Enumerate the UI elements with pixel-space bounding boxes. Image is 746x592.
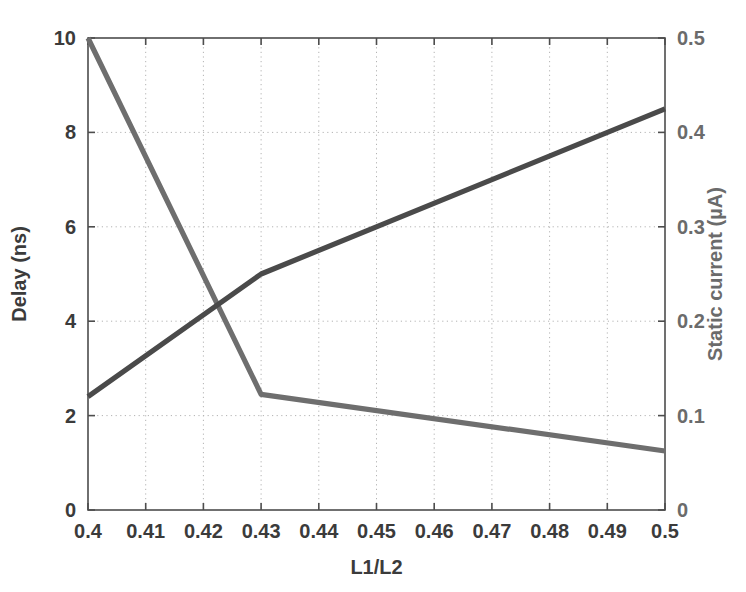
y-tick-label-right: 0.5 — [677, 27, 705, 49]
x-tick-label: 0.48 — [530, 520, 569, 542]
series-lines — [88, 38, 665, 451]
y-axis-title-right: Static current (µA) — [704, 187, 726, 361]
y-tick-label-left: 6 — [65, 216, 76, 238]
chart-svg: 0.40.410.420.430.440.450.460.470.480.490… — [0, 0, 746, 592]
x-tick-label: 0.41 — [126, 520, 165, 542]
y-tick-label-right: 0.1 — [677, 405, 705, 427]
y-tick-label-left: 8 — [65, 121, 76, 143]
y-tick-label-right: 0.2 — [677, 310, 705, 332]
x-tick-label: 0.43 — [242, 520, 281, 542]
y-tick-label-right: 0 — [677, 499, 688, 521]
y-tick-label-left: 10 — [54, 27, 76, 49]
x-tick-label: 0.5 — [651, 520, 679, 542]
x-axis-title: L1/L2 — [350, 556, 402, 578]
x-tick-label: 0.46 — [415, 520, 454, 542]
y-tick-label-left: 2 — [65, 405, 76, 427]
x-tick-label: 0.45 — [357, 520, 396, 542]
x-tick-label: 0.4 — [74, 520, 103, 542]
y-tick-label-right: 0.3 — [677, 216, 705, 238]
chart-figure: 0.40.410.420.430.440.450.460.470.480.490… — [0, 0, 746, 592]
y-axis-title-left: Delay (ns) — [8, 226, 30, 322]
series-line-delay — [88, 38, 665, 451]
x-tick-label: 0.44 — [299, 520, 339, 542]
tick-labels: 0.40.410.420.430.440.450.460.470.480.490… — [54, 27, 706, 542]
x-tick-label: 0.47 — [472, 520, 511, 542]
x-tick-label: 0.49 — [588, 520, 627, 542]
y-tick-label-left: 4 — [65, 310, 77, 332]
y-tick-label-right: 0.4 — [677, 121, 706, 143]
series-line-static-current — [88, 109, 665, 397]
x-tick-label: 0.42 — [184, 520, 223, 542]
y-tick-label-left: 0 — [65, 499, 76, 521]
